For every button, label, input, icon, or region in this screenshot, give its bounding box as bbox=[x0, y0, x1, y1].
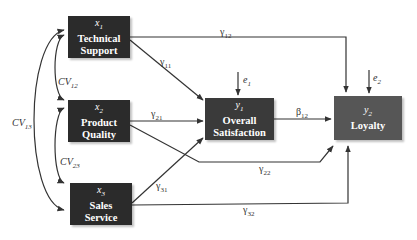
node-technical-support: x1 Technical Support bbox=[68, 16, 130, 58]
node-label-line1: Product bbox=[81, 117, 117, 129]
node-label-line1: Technical bbox=[78, 33, 121, 45]
node-product-quality: x2 Product Quality bbox=[68, 100, 130, 142]
path-gamma11 bbox=[130, 40, 203, 100]
node-var: y2 bbox=[364, 104, 372, 120]
label-gamma11: γ11 bbox=[160, 56, 171, 70]
path-gamma31 bbox=[132, 138, 203, 203]
node-label-line2: Service bbox=[85, 212, 118, 224]
node-label-line2: Support bbox=[81, 45, 118, 57]
label-gamma22: γ22 bbox=[259, 163, 270, 177]
node-var: x2 bbox=[95, 101, 103, 117]
node-overall-satisfaction: y1 Overall Satisfaction bbox=[205, 98, 274, 140]
path-gamma32 bbox=[132, 146, 348, 205]
node-label-line1: Loyalty bbox=[351, 120, 385, 132]
label-gamma31: γ31 bbox=[156, 180, 167, 194]
node-label-line1: Overall bbox=[223, 115, 257, 127]
node-var: y1 bbox=[236, 99, 244, 115]
label-cv23: CV23 bbox=[60, 156, 80, 170]
label-cv12: CV12 bbox=[58, 76, 78, 90]
label-beta12: β12 bbox=[296, 106, 308, 120]
node-label-line1: Sales bbox=[90, 200, 113, 212]
label-cv13: CV13 bbox=[12, 117, 32, 131]
label-gamma21: γ21 bbox=[151, 108, 162, 122]
path-diagram: x1 Technical Support x2 Product Quality … bbox=[0, 0, 417, 240]
node-label-line2: Satisfaction bbox=[213, 127, 266, 139]
node-var: x1 bbox=[95, 17, 103, 33]
node-sales-service: x3 Sales Service bbox=[70, 183, 132, 225]
label-gamma12: γ12 bbox=[220, 26, 231, 40]
node-label-line2: Quality bbox=[82, 129, 116, 141]
node-var: x3 bbox=[97, 184, 105, 200]
label-gamma32: γ32 bbox=[243, 204, 254, 218]
label-e1: e1 bbox=[243, 74, 251, 88]
cov-arc-23 bbox=[55, 108, 64, 183]
label-e2: e2 bbox=[373, 72, 381, 86]
cov-arc-13 bbox=[34, 30, 64, 210]
cov-arc-12 bbox=[55, 35, 64, 100]
node-loyalty: y2 Loyalty bbox=[334, 96, 402, 140]
